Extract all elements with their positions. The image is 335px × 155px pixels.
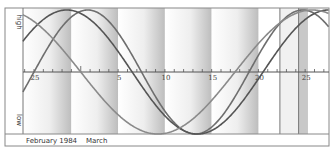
shaded-band [71, 8, 118, 134]
date-markers [280, 8, 308, 134]
shaded-band [23, 8, 71, 134]
axis-tick-label: 15 [208, 74, 217, 82]
low-label: low [15, 114, 23, 126]
high-label: high [15, 14, 23, 29]
month-label-march: March [86, 137, 107, 145]
biorhythm-chart: 25510152025 high low February 1984 March [0, 0, 335, 155]
axis-tick-label: 5 [117, 74, 121, 82]
marker-band [299, 8, 308, 134]
shaded-band [165, 8, 212, 134]
month-label-february: February 1984 [26, 137, 78, 145]
axis-tick-label: 10 [161, 74, 170, 82]
axis-tick-label: 25 [302, 74, 311, 82]
